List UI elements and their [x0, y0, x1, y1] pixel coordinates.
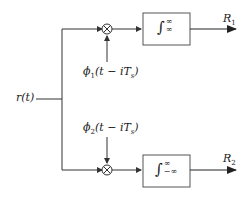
correlator-receiver-diagram: r(t) ϕ1(t − iTs) ϕ2(t − iTs) ∫∞∞ ∫∞−∞ R1…	[0, 0, 247, 199]
diagram-lines	[0, 0, 247, 199]
integral-1: ∫∞∞	[157, 18, 173, 36]
output-label-2: R2	[223, 152, 236, 167]
input-label: r(t)	[16, 91, 34, 104]
basis-label-1: ϕ1(t − iTs)	[83, 65, 139, 80]
output-label-1: R1	[223, 12, 236, 27]
integral-2: ∫∞−∞	[155, 160, 177, 178]
basis-label-2: ϕ2(t − iTs)	[83, 121, 139, 136]
